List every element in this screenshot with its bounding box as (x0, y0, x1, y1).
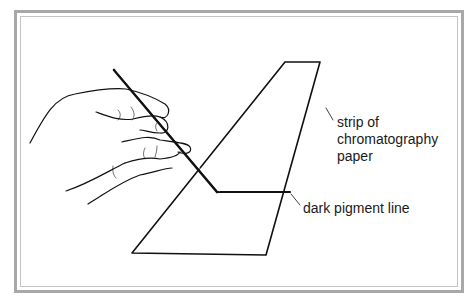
paper-label-line-3: paper (337, 148, 438, 165)
paper-label-line-1: strip of (337, 114, 438, 131)
paper-leader (326, 108, 333, 120)
pigment-line-label: dark pigment line (303, 200, 410, 217)
capillary-tube (114, 70, 217, 192)
pigment-leader (291, 194, 300, 205)
paper-label-line-2: chromatography (337, 131, 438, 148)
paper-strip-label: strip of chromatography paper (337, 114, 438, 165)
